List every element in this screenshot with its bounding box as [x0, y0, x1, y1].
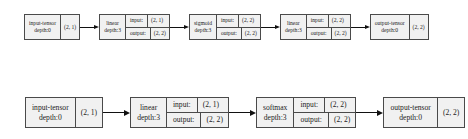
io-row-output: output: (2, 2) [307, 27, 350, 40]
node-label: softmax depth:3 [257, 98, 293, 127]
io-row-output: output: (2, 2) [167, 112, 228, 127]
node-label: linear depth:3 [100, 15, 125, 39]
io-row-input: input: (2, 2) [294, 98, 355, 112]
node-depth: depth:3 [195, 27, 212, 34]
node-label: input-tensor depth:0 [26, 98, 75, 127]
flow-arrow [351, 25, 370, 29]
io-output-label: output: [294, 113, 328, 127]
flow-arrow [80, 25, 99, 29]
io-input-shape: (2, 2) [328, 15, 347, 27]
node-input-tensor: input-tensor depth:0 (2, 1) [24, 14, 80, 40]
flow-arrow [261, 25, 280, 29]
node-depth: depth:0 [34, 27, 51, 34]
node-depth: depth:0 [399, 113, 422, 122]
node-label: linear depth:3 [281, 15, 306, 39]
io-output-label: output: [307, 28, 331, 40]
node-depth: depth:3 [137, 113, 160, 122]
io-input-shape: (2, 1) [147, 15, 166, 27]
node-title: sigmoid [194, 20, 212, 27]
io-input-label: input: [126, 15, 147, 27]
node-title: output-tensor [375, 20, 405, 27]
node-title: linear [140, 103, 157, 112]
node-title: input-tensor [32, 103, 69, 112]
node-linear: linear depth:3 input: (2, 1) output: (2,… [99, 14, 170, 40]
node-depth: depth:0 [39, 113, 62, 122]
io-input-label: input: [307, 15, 328, 27]
node-sigmoid: sigmoid depth:3 input: (2, 2) output: (2… [189, 14, 261, 40]
node-title: softmax [263, 103, 287, 112]
io-output-shape: (2, 2) [331, 28, 350, 40]
arrow-shaft [356, 112, 377, 113]
io-output-shape: (2, 2) [241, 28, 260, 40]
node-label: output-tensor depth:0 [371, 15, 409, 39]
node-title: linear [287, 20, 300, 27]
node-io: input: (2, 1) output: (2, 2) [125, 15, 169, 39]
node-input-tensor: input-tensor depth:0 (2, 1) [25, 97, 103, 128]
io-input-shape: (2, 2) [238, 15, 257, 27]
io-output-shape: (2, 2) [328, 113, 355, 127]
io-row-input: input: (2, 1) [167, 98, 228, 112]
node-io: input: (2, 2) output: (2, 2) [216, 15, 260, 39]
tensor-shape: (2, 2) [437, 98, 464, 127]
arrow-shaft [103, 112, 124, 113]
node-linear: linear depth:3 input: (2, 1) output: (2,… [130, 97, 229, 128]
io-row-output: output: (2, 2) [294, 112, 355, 127]
io-output-shape: (2, 2) [200, 113, 227, 127]
graph-row-bottom: input-tensor depth:0 (2, 1) linear depth… [25, 97, 465, 128]
node-depth: depth:3 [104, 27, 121, 34]
node-title: input-tensor [29, 20, 56, 27]
node-output-tensor: output-tensor depth:0 (2, 2) [383, 97, 465, 128]
io-row-input: input: (2, 1) [126, 15, 169, 27]
node-io: input: (2, 2) output: (2, 2) [306, 15, 350, 39]
node-depth: depth:0 [381, 27, 398, 34]
node-title: linear [106, 20, 119, 27]
io-output-shape: (2, 2) [150, 28, 169, 40]
node-depth: depth:3 [264, 113, 287, 122]
node-softmax: softmax depth:3 input: (2, 2) output: (2… [256, 97, 356, 128]
node-depth: depth:3 [285, 27, 302, 34]
node-io: input: (2, 2) output: (2, 2) [293, 98, 355, 127]
flow-arrow [103, 110, 130, 116]
io-input-shape: (2, 1) [197, 98, 224, 112]
tensor-shape: (2, 1) [60, 15, 79, 39]
tensor-shape: (2, 1) [75, 98, 102, 127]
io-row-input: input: (2, 2) [217, 15, 260, 27]
io-input-shape: (2, 2) [324, 98, 351, 112]
node-linear-2: linear depth:3 input: (2, 2) output: (2,… [280, 14, 351, 40]
node-label: linear depth:3 [131, 98, 166, 127]
node-label: output-tensor depth:0 [384, 98, 437, 127]
io-input-label: input: [167, 98, 197, 112]
arrow-shaft [80, 27, 94, 28]
node-label: sigmoid depth:3 [190, 15, 216, 39]
node-title: output-tensor [390, 103, 431, 112]
io-row-output: output: (2, 2) [126, 27, 169, 40]
node-output-tensor: output-tensor depth:0 (2, 2) [370, 14, 429, 40]
flow-arrow [356, 110, 383, 116]
node-label: input-tensor depth:0 [25, 15, 60, 39]
io-output-label: output: [217, 28, 241, 40]
io-input-label: input: [294, 98, 324, 112]
flow-arrow [229, 110, 256, 116]
io-output-label: output: [126, 28, 150, 40]
arrow-shaft [170, 27, 184, 28]
io-input-label: input: [217, 15, 238, 27]
arrow-shaft [351, 27, 365, 28]
io-row-output: output: (2, 2) [217, 27, 260, 40]
io-row-input: input: (2, 2) [307, 15, 350, 27]
node-io: input: (2, 1) output: (2, 2) [166, 98, 228, 127]
io-output-label: output: [167, 113, 201, 127]
flow-arrow [170, 25, 189, 29]
arrow-shaft [261, 27, 275, 28]
arrow-shaft [229, 112, 250, 113]
tensor-shape: (2, 2) [409, 15, 428, 39]
graph-row-top: input-tensor depth:0 (2, 1) linear depth… [24, 14, 429, 40]
